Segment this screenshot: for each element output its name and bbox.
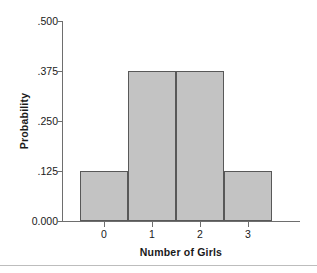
y-tick-label: .250	[16, 116, 58, 126]
y-axis-line	[62, 21, 63, 222]
y-tick-mark	[57, 71, 62, 72]
bar	[224, 171, 272, 221]
plot-area	[62, 21, 300, 222]
x-tick-mark	[152, 222, 153, 227]
x-tick-mark	[248, 222, 249, 227]
y-axis-tick-labels: 0.000.125.250.375.500	[14, 0, 58, 273]
bar	[128, 71, 176, 221]
x-tick-mark	[200, 222, 201, 227]
bottom-divider	[0, 265, 317, 266]
x-axis-tick-labels: 0123	[62, 228, 300, 242]
x-tick-label: 0	[89, 228, 119, 240]
x-tick-label: 1	[137, 228, 167, 240]
bar	[80, 171, 128, 221]
y-tick-mark	[57, 221, 62, 222]
y-tick-label: .125	[16, 166, 58, 176]
bar	[176, 71, 224, 221]
y-tick-mark	[57, 171, 62, 172]
y-tick-label: .375	[16, 66, 58, 76]
y-tick-mark	[57, 121, 62, 122]
x-tick-label: 3	[233, 228, 263, 240]
x-tick-label: 2	[185, 228, 215, 240]
y-tick-label: .500	[16, 16, 58, 26]
x-axis-line	[62, 221, 300, 222]
x-tick-mark	[104, 222, 105, 227]
y-tick-label: 0.000	[16, 216, 58, 226]
x-axis-title: Number of Girls	[62, 246, 300, 258]
histogram-figure: Probability 0.000.125.250.375.500 0123 N…	[0, 0, 317, 273]
y-tick-mark	[57, 21, 62, 22]
